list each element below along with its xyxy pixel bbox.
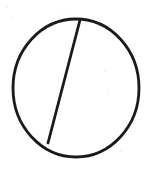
paper-speck [10,16,12,18]
chord-line [48,20,80,143]
paper-speck [6,6,8,8]
paper-speck [104,70,106,72]
figure-canvas [0,0,153,170]
paper-speck [108,90,110,92]
paper-speck [120,150,122,152]
paper-speck [63,8,65,10]
circle-chord-drawing [0,0,153,170]
